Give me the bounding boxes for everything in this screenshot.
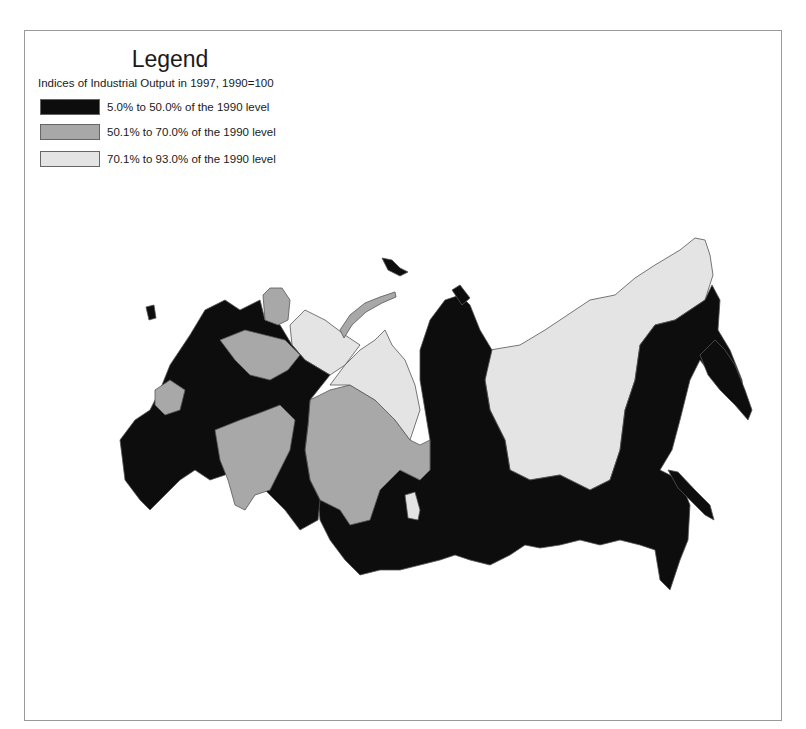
- region-kola: [263, 288, 290, 325]
- region-franz-josef-land: [382, 258, 408, 276]
- russia-choropleth-map: [0, 0, 806, 729]
- region-novaya-zemlya: [340, 292, 396, 338]
- region-kamchatka: [700, 340, 752, 420]
- region-kaliningrad: [146, 305, 156, 320]
